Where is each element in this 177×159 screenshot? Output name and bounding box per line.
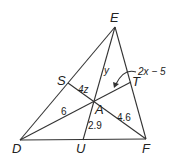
label-F: F: [142, 141, 151, 156]
label-S: S: [57, 73, 66, 88]
label-U: U: [76, 141, 86, 156]
triangle-diagram: E D F U S T A 4z 6 y 2.9 4.6 2x − 5: [0, 0, 177, 159]
label-AT: 2x − 5: [137, 66, 166, 77]
label-EA: y: [103, 65, 110, 76]
label-SA: 4z: [78, 84, 89, 95]
label-DA: 6: [61, 106, 67, 117]
label-E: E: [110, 10, 119, 25]
label-AF: 4.6: [117, 112, 131, 123]
segment-DT: [20, 82, 131, 140]
label-D: D: [12, 141, 21, 156]
label-A: A: [94, 102, 104, 117]
label-AU: 2.9: [88, 120, 102, 131]
